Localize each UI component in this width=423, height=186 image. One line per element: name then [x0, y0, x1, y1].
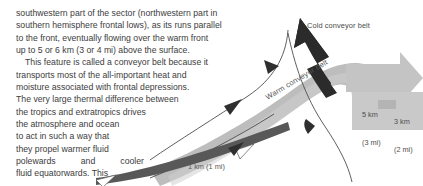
front-triangle-upper	[264, 60, 279, 74]
label-cold-conveyor-belt: Cold conveyor belt	[307, 21, 370, 30]
label-surface-height: 1 km (1 mi)	[188, 162, 225, 171]
label-height-5km-value: 5 km	[362, 110, 381, 119]
conveyor-belt-diagram: Cold conveyor belt Warm conveyor belt 1 …	[0, 0, 423, 186]
warm-band-inner-arrowhead	[224, 99, 242, 115]
front-triangle-lower	[304, 119, 315, 134]
label-height-3km-value: 3 km	[394, 117, 413, 126]
figure-page: southwestern part of the sector (northwe…	[0, 0, 423, 186]
label-height-3km-imperial: (2 mi)	[394, 145, 413, 154]
label-height-3km: 3 km (2 mi)	[394, 99, 413, 173]
label-height-5km: 5 km (3 mi)	[362, 92, 381, 166]
label-height-5km-imperial: (3 mi)	[362, 138, 381, 147]
